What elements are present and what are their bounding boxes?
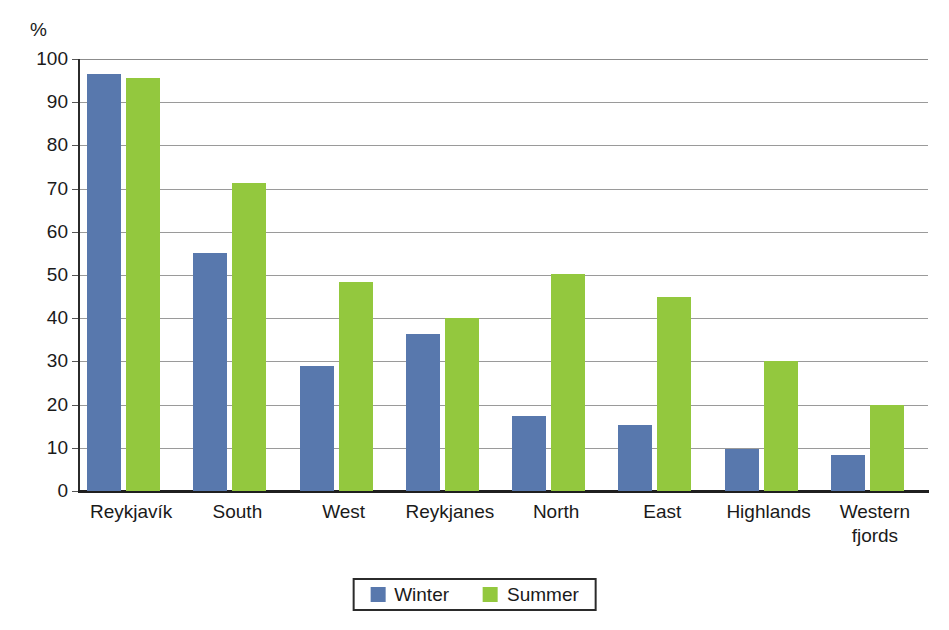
bar-summer (764, 361, 798, 491)
y-axis-tick-label: 60 (8, 222, 68, 241)
bar-summer (445, 318, 479, 491)
bar-group (397, 59, 503, 491)
bar-summer (551, 274, 585, 491)
y-axis-tick-label: 70 (8, 179, 68, 198)
bar-group (822, 59, 928, 491)
y-axis-tick-label: 90 (8, 92, 68, 111)
bar-summer (657, 297, 691, 491)
x-axis-category-label: Western fjords (802, 500, 948, 548)
legend-item[interactable]: Winter (370, 585, 449, 604)
bar-summer (339, 282, 373, 491)
bar-winter (618, 425, 652, 491)
y-axis-tick-label: 100 (8, 49, 68, 68)
y-axis-tick-label: 80 (8, 135, 68, 154)
legend-swatch-icon (483, 587, 498, 602)
bar-summer (232, 183, 266, 491)
y-axis-tick-label: 50 (8, 265, 68, 284)
bar-chart: % 1009080706050403020100 ReykjavíkSouthW… (0, 0, 949, 630)
bar-winter (831, 455, 865, 491)
y-axis-tick-label: 10 (8, 438, 68, 457)
bar-group (78, 59, 184, 491)
bar-summer (870, 405, 904, 491)
y-axis-tick-label: 0 (8, 481, 68, 500)
bar-winter (87, 74, 121, 491)
bar-group (503, 59, 609, 491)
bar-group (291, 59, 397, 491)
bar-summer (126, 78, 160, 491)
plot-area (78, 59, 928, 491)
bar-group (184, 59, 290, 491)
legend-label: Summer (507, 585, 579, 604)
y-axis-tick-label: 30 (8, 351, 68, 370)
bar-winter (512, 416, 546, 491)
y-axis-tick-label: 40 (8, 308, 68, 327)
bar-group (609, 59, 715, 491)
legend-label: Winter (394, 585, 449, 604)
bar-group (716, 59, 822, 491)
bar-winter (300, 366, 334, 491)
bar-winter (193, 253, 227, 491)
bar-winter (406, 334, 440, 491)
bar-winter (725, 449, 759, 491)
y-axis-unit-label: % (30, 20, 47, 39)
chart-legend: WinterSummer (352, 578, 597, 611)
legend-swatch-icon (370, 587, 385, 602)
y-axis-tick-label: 20 (8, 395, 68, 414)
legend-item[interactable]: Summer (483, 585, 579, 604)
